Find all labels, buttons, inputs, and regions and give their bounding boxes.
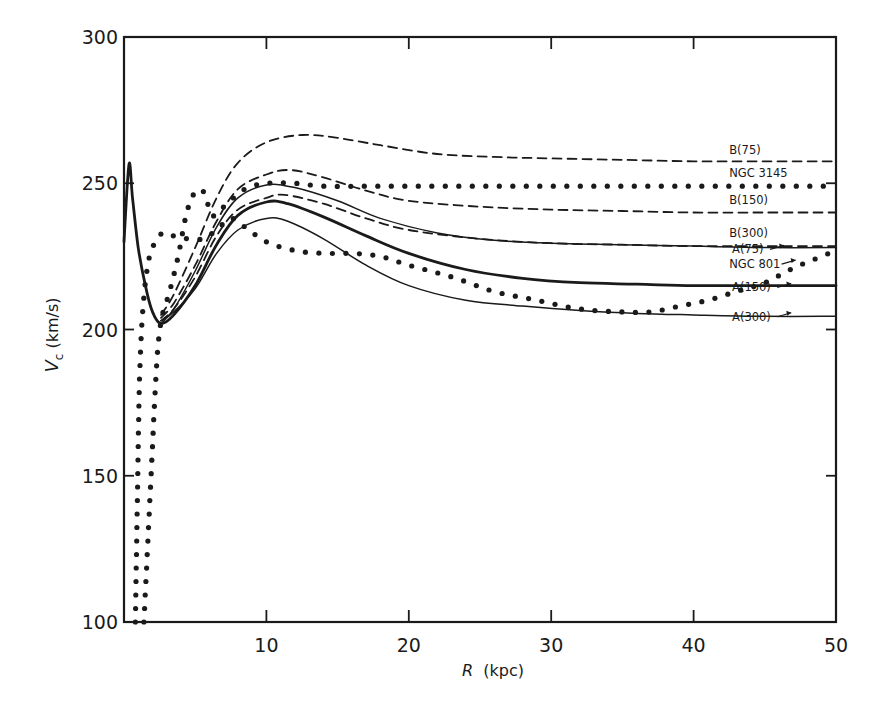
data-dot bbox=[539, 299, 544, 304]
label-a-150: A(150) bbox=[732, 280, 791, 294]
data-dot bbox=[143, 579, 148, 584]
data-dot bbox=[147, 498, 152, 503]
x-axis-label-symbol: R bbox=[462, 661, 473, 680]
y-tick-label: 200 bbox=[82, 319, 118, 341]
data-dot bbox=[672, 184, 677, 189]
data-dot bbox=[136, 430, 141, 435]
series-ngc-801 bbox=[133, 216, 831, 625]
data-dot bbox=[813, 256, 818, 261]
data-dot bbox=[294, 181, 299, 186]
data-dot bbox=[151, 243, 156, 248]
data-dot bbox=[370, 253, 375, 258]
data-dot bbox=[153, 377, 158, 382]
data-dot bbox=[699, 184, 704, 189]
data-dot bbox=[389, 184, 394, 189]
data-dot bbox=[136, 403, 141, 408]
data-dot bbox=[152, 404, 157, 409]
data-dot bbox=[699, 299, 704, 304]
data-dot bbox=[136, 417, 141, 422]
data-dot bbox=[135, 484, 140, 489]
data-dot bbox=[137, 390, 142, 395]
data-dot bbox=[416, 184, 421, 189]
data-dot bbox=[133, 606, 138, 611]
data-dot bbox=[526, 296, 531, 301]
data-dot bbox=[145, 539, 150, 544]
data-dot bbox=[180, 231, 185, 236]
data-dot bbox=[148, 485, 153, 490]
data-dot bbox=[135, 471, 140, 476]
data-dot bbox=[141, 619, 146, 624]
data-dot bbox=[474, 283, 479, 288]
data-dot bbox=[422, 267, 427, 272]
data-dot bbox=[184, 236, 189, 241]
plot-border bbox=[124, 37, 836, 622]
x-axis-label-unit: (kpc) bbox=[483, 661, 524, 680]
data-dot bbox=[158, 232, 163, 237]
label-a-75: A(75) bbox=[732, 242, 784, 256]
data-dot bbox=[151, 417, 156, 422]
data-dot bbox=[142, 606, 147, 611]
data-dot bbox=[537, 184, 542, 189]
x-tick-label: 50 bbox=[824, 634, 848, 656]
data-dot bbox=[402, 184, 407, 189]
data-dot bbox=[725, 292, 730, 297]
data-dot bbox=[147, 255, 152, 260]
data-dot bbox=[172, 271, 177, 276]
data-dot bbox=[712, 296, 717, 301]
data-dot bbox=[201, 189, 206, 194]
y-axis-label-subscript: c bbox=[52, 354, 66, 361]
data-dot bbox=[290, 247, 295, 252]
data-dot bbox=[143, 592, 148, 597]
data-dot bbox=[486, 287, 491, 292]
x-tick-label: 20 bbox=[397, 634, 421, 656]
data-dot bbox=[780, 184, 785, 189]
data-dot bbox=[321, 184, 326, 189]
data-dot bbox=[456, 184, 461, 189]
data-dot bbox=[144, 269, 149, 274]
data-dot bbox=[151, 431, 156, 436]
data-dot bbox=[137, 376, 142, 381]
x-tick-label: 10 bbox=[254, 634, 278, 656]
curve-label-text: NGC 3145 bbox=[729, 166, 787, 180]
data-dot bbox=[134, 552, 139, 557]
data-dot bbox=[156, 336, 161, 341]
data-dot bbox=[591, 184, 596, 189]
data-dot bbox=[135, 498, 140, 503]
data-dot bbox=[135, 457, 140, 462]
data-dot bbox=[753, 184, 758, 189]
curve-label-text: B(150) bbox=[729, 193, 768, 207]
data-dot bbox=[633, 310, 638, 315]
data-dot bbox=[149, 471, 154, 476]
data-dot bbox=[564, 184, 569, 189]
data-dot bbox=[524, 184, 529, 189]
data-dot bbox=[133, 592, 138, 597]
y-tick-label: 150 bbox=[82, 465, 118, 487]
data-dot bbox=[483, 184, 488, 189]
data-dot bbox=[686, 302, 691, 307]
data-dot bbox=[335, 184, 340, 189]
data-dot bbox=[139, 323, 144, 328]
y-axis-label-unit: (km/s) bbox=[43, 298, 62, 349]
data-dot bbox=[133, 619, 138, 624]
data-dot bbox=[552, 302, 557, 307]
data-dot bbox=[686, 184, 691, 189]
curve-label-text: A(75) bbox=[732, 242, 763, 256]
y-tick-label: 300 bbox=[82, 26, 118, 48]
data-dot bbox=[660, 307, 665, 312]
data-dot bbox=[252, 232, 257, 237]
data-dot bbox=[134, 538, 139, 543]
data-dot bbox=[149, 458, 154, 463]
data-dot bbox=[141, 296, 146, 301]
x-axis-label: R (kpc) bbox=[462, 661, 524, 680]
data-dot bbox=[448, 274, 453, 279]
data-dot bbox=[510, 184, 515, 189]
y-axis-ticks: 100150200250300 bbox=[82, 26, 836, 633]
plot-frame bbox=[124, 37, 836, 622]
data-dot bbox=[303, 250, 308, 255]
data-dot bbox=[551, 184, 556, 189]
data-dot bbox=[135, 511, 140, 516]
data-dot bbox=[139, 336, 144, 341]
data-dot bbox=[800, 261, 805, 266]
data-dot bbox=[632, 184, 637, 189]
arrowhead-icon bbox=[786, 311, 791, 316]
